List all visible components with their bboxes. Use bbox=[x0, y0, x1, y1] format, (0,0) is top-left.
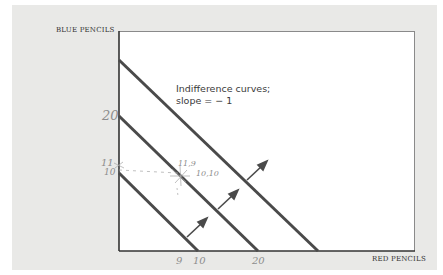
x-axis-label: RED PENCILS bbox=[372, 255, 426, 263]
y-axis-label: BLUE PENCILS bbox=[56, 26, 115, 34]
chart-canvas bbox=[0, 0, 443, 275]
legend-annotation: Indifference curves; slope = − 1 bbox=[176, 83, 270, 107]
pencil-y-20: 20 bbox=[102, 108, 119, 123]
pencil-x-20: 20 bbox=[252, 255, 265, 266]
legend-line-2: slope = − 1 bbox=[176, 95, 270, 107]
pencil-point-11-9: 11,9 bbox=[178, 159, 196, 168]
pencil-x-10: 10 bbox=[193, 255, 206, 266]
indifference-curve-middle bbox=[119, 116, 258, 251]
preference-arrow-3 bbox=[247, 161, 267, 180]
preference-arrow-2 bbox=[218, 190, 238, 209]
pencil-point-10-10: 10,10 bbox=[196, 169, 219, 178]
pencil-x-9: 9 bbox=[176, 255, 182, 266]
pencil-y-10: 10 bbox=[104, 167, 115, 177]
preference-arrow-1 bbox=[187, 218, 207, 237]
legend-line-1: Indifference curves; bbox=[176, 83, 270, 95]
indifference-curve-bottom bbox=[119, 173, 198, 251]
